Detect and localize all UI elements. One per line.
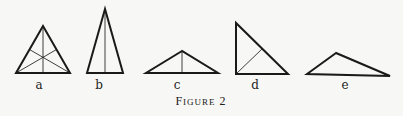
label-a: a <box>35 79 42 91</box>
triangle-e-outline <box>307 53 390 76</box>
caption-smallcaps: igure <box>183 97 216 107</box>
triangle-d <box>236 23 288 74</box>
label-c: c <box>174 79 181 91</box>
label-e: e <box>341 79 348 91</box>
figure-caption: Figure 2 <box>175 94 226 109</box>
triangle-e <box>307 53 390 76</box>
label-d: d <box>251 79 259 91</box>
triangle-d-inner-line <box>236 49 262 74</box>
figure-canvas: a b c d e Figure 2 <box>0 0 403 116</box>
caption-number: 2 <box>220 94 227 108</box>
caption-initial: F <box>175 94 183 108</box>
triangle-c <box>146 51 218 73</box>
triangle-b <box>87 9 123 73</box>
label-b: b <box>95 79 103 91</box>
triangle-group <box>16 9 390 76</box>
triangle-a <box>16 26 70 73</box>
